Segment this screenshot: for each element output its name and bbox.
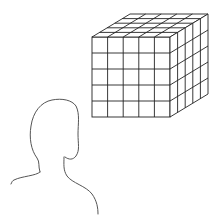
head-outline	[30, 99, 78, 172]
diagram-canvas	[0, 0, 222, 218]
person-silhouette	[11, 99, 98, 214]
cube-front-face	[92, 37, 170, 117]
neck-right-shoulder	[64, 157, 98, 214]
left-shoulder	[11, 172, 40, 184]
grid-cube	[92, 14, 208, 117]
